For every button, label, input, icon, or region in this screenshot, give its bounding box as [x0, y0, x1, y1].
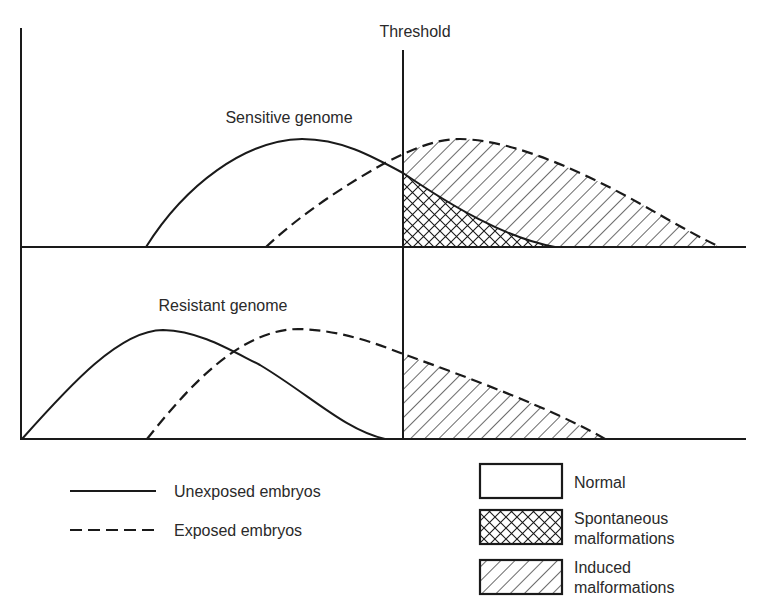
legend-unexposed-label: Unexposed embryos — [174, 483, 321, 500]
legend-crosshatch-swatch-icon — [480, 510, 562, 544]
line-legend: Unexposed embryos Exposed embryos — [70, 483, 321, 539]
resistant-induced-region — [147, 329, 605, 439]
resistant-genome-label: Resistant genome — [159, 297, 288, 314]
legend-spontaneous-label-line1: Spontaneous — [574, 510, 668, 527]
sensitive-genome-label: Sensitive genome — [225, 109, 352, 126]
legend-spontaneous-label-line2: malformations — [574, 530, 674, 547]
legend-exposed-label: Exposed embryos — [174, 522, 302, 539]
resistant-unexposed-curve — [22, 330, 385, 439]
legend-induced-label-line2: malformations — [574, 579, 674, 596]
legend-diagonal-swatch-icon — [480, 560, 562, 594]
figure-canvas: Sensitive genome Resistant genome Thresh… — [0, 0, 761, 614]
legend-induced-label-line1: Induced — [574, 559, 631, 576]
sensitive-panel: Sensitive genome — [146, 109, 720, 247]
legend-normal-swatch-icon — [480, 464, 562, 498]
resistant-panel: Resistant genome — [22, 297, 605, 439]
legend-normal-label: Normal — [574, 474, 626, 491]
threshold-label: Threshold — [379, 23, 450, 40]
fill-legend: Normal Spontaneous malformations Induced… — [480, 464, 674, 596]
